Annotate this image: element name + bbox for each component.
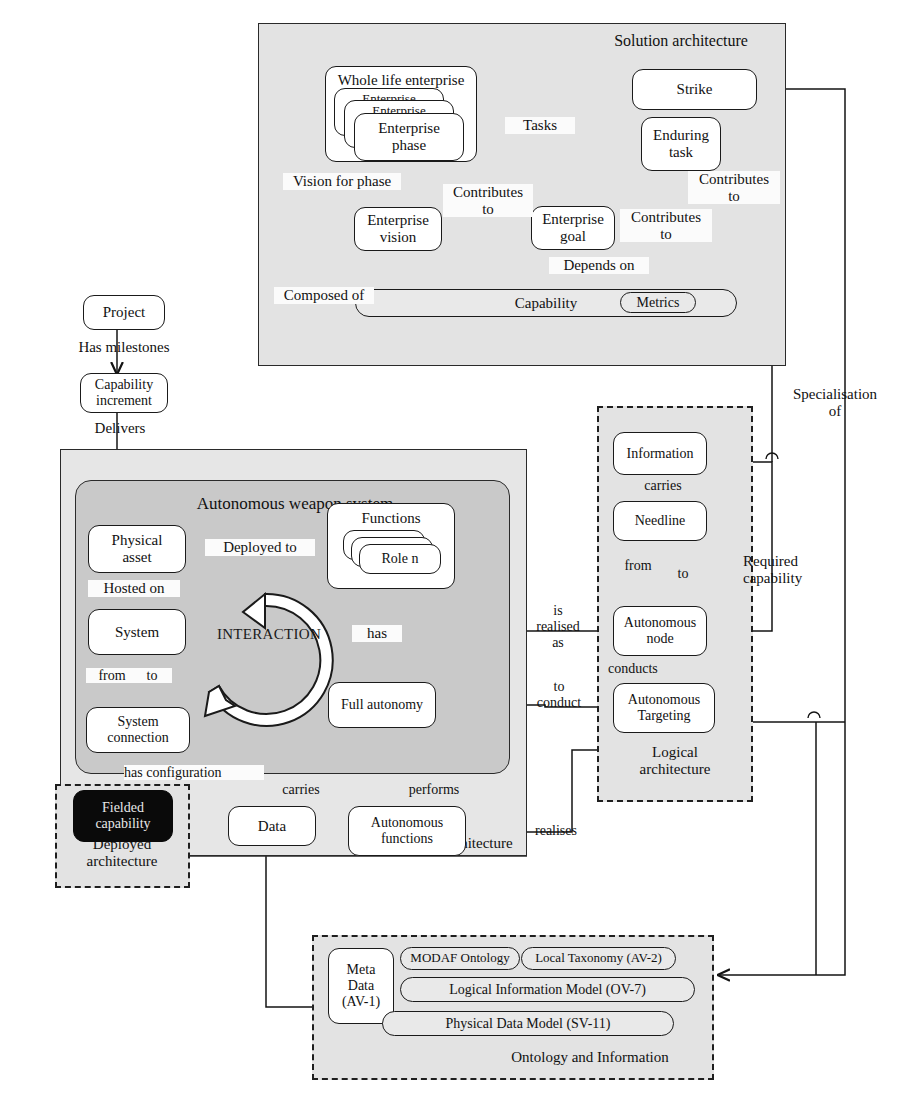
node-label-strike: Strike [677,81,713,98]
edge-label-contributes-to-goal: Contributes to [443,184,533,217]
edge-label-composed-of: Composed of [274,287,374,304]
node-label-enterprise-goal: Enterprise goal [542,211,604,245]
edge-label-depends-on: Depends on [549,257,649,274]
node-strike[interactable]: Strike [632,69,757,110]
node-autonomous-targeting[interactable]: Autonomous Targeting [613,683,715,733]
node-system-connection[interactable]: System connection [86,707,190,753]
edge-label-from-needline: from [612,558,664,573]
node-fielded-capability[interactable]: Fielded capability [73,790,173,842]
node-label-enduring-task: Enduring task [653,127,709,161]
zone-label-solution-architecture-top: Solution architecture [586,32,776,50]
edge-label-has-milestones: Has milestones [62,339,186,356]
node-label-local-taxonomy: Local Taxonomy (AV-2) [535,951,662,966]
node-label-autonomous-node: Autonomous node [624,615,696,646]
edge-label-contributes-to-enduring-task: Contributes to [620,209,712,242]
edge-label-deployed-to: Deployed to [205,539,315,556]
node-label-information: Information [627,446,694,462]
node-logical-information-model[interactable]: Logical Information Model (OV-7) [400,977,695,1002]
node-enterprise-vision[interactable]: Enterprise vision [354,207,442,251]
diagram-canvas: Solution architecture Solution architect… [0,0,906,1111]
node-capability-increment[interactable]: Capability increment [80,373,168,413]
node-label-project: Project [103,304,146,321]
node-autonomous-functions[interactable]: Autonomous functions [348,806,466,856]
edge-label-vision-for-phase: Vision for phase [283,173,401,190]
interaction-label: INTERACTION [209,626,329,643]
edge-label-to-conduct: to conduct [524,679,594,711]
edge-label-required-capability: Required capability [743,553,845,588]
edge-label-conducts: conducts [608,661,694,676]
edge-label-has-configuration: has configuration [124,765,264,780]
edge-label-to-needline: to [664,566,702,581]
edge-label-tasks: Tasks [505,117,575,134]
edge-label-to-system: to [132,668,172,683]
node-metrics[interactable]: Metrics [620,292,696,313]
node-physical-asset[interactable]: Physical asset [88,525,186,573]
node-label-modaf-ontology: MODAF Ontology [410,951,509,966]
node-label-needline: Needline [635,513,686,529]
node-label-enterprise-vision: Enterprise vision [367,212,429,246]
node-label-role-n: Role n [382,551,419,567]
node-label-functions: Functions [361,510,420,527]
edge-label-carries-system-connection: carries [266,782,336,797]
node-needline[interactable]: Needline [613,501,707,541]
edge-label-from-system: from [86,668,138,683]
node-enduring-task[interactable]: Enduring task [641,117,721,171]
node-enterprise-phase[interactable]: Enterprise phase [354,113,464,161]
node-label-physical-asset: Physical asset [112,532,163,566]
node-label-data: Data [258,818,286,835]
zone-label-ontology-and-information: Ontology and Information [480,1049,700,1066]
edge-label-has: has [352,625,402,642]
node-meta-data[interactable]: Meta Data (AV-1) [328,948,394,1024]
node-autonomous-node[interactable]: Autonomous node [613,606,707,656]
node-label-whole-life-enterprise: Whole life enterprise [338,72,465,89]
node-information[interactable]: Information [613,432,707,475]
edge-label-performs: performs [396,782,472,797]
interaction-cycle-icon [195,590,335,730]
node-label-capability-increment: Capability increment [95,377,153,408]
node-physical-data-model[interactable]: Physical Data Model (SV-11) [382,1011,674,1036]
node-label-full-autonomy: Full autonomy [341,697,423,713]
node-project[interactable]: Project [83,295,165,330]
node-system[interactable]: System [88,609,186,655]
node-modaf-ontology[interactable]: MODAF Ontology [400,947,520,970]
node-label-system-connection: System connection [107,714,168,745]
node-data[interactable]: Data [228,806,316,846]
edge-label-hosted-on: Hosted on [88,580,180,597]
edge-label-realises: realises [518,823,594,838]
node-label-system: System [115,624,159,641]
node-label-autonomous-functions: Autonomous functions [371,815,443,846]
node-label-metrics: Metrics [637,295,680,311]
edge-label-carries-needline: carries [628,478,698,493]
node-label-autonomous-targeting: Autonomous Targeting [628,692,700,723]
node-label-meta-data: Meta Data (AV-1) [342,962,380,1009]
edge-label-delivers: Delivers [78,420,162,437]
node-label-enterprise-phase: Enterprise phase [378,120,440,154]
zone-label-logical-architecture: Logical architecture [612,744,738,778]
node-label-logical-information-model: Logical Information Model (OV-7) [449,982,646,998]
node-enterprise-goal[interactable]: Enterprise goal [531,206,615,250]
node-label-capability: Capability [515,295,578,312]
edge-label-specialisation-of: Specialisation of [770,386,900,421]
node-label-physical-data-model: Physical Data Model (SV-11) [446,1016,611,1032]
edge-label-is-realised-as: is realised as [519,603,597,651]
node-local-taxonomy[interactable]: Local Taxonomy (AV-2) [521,947,676,970]
node-role-n[interactable]: Role n [359,544,441,574]
node-full-autonomy[interactable]: Full autonomy [328,682,436,728]
node-label-fielded-capability: Fielded capability [95,800,150,831]
edge-label-contributes-to-strike: Contributes to [688,171,780,204]
